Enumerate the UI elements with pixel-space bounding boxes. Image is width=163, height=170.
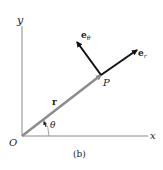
position-vector-label: r <box>52 97 57 107</box>
e-r-subscript: r <box>144 52 148 59</box>
angle-label: θ <box>50 120 56 130</box>
figure-caption: (b) <box>73 149 86 159</box>
e-theta-label: eθ <box>81 30 91 41</box>
y-axis-label: y <box>16 14 24 27</box>
unit-vector-e-theta <box>77 42 101 75</box>
unit-vector-e-r <box>101 50 137 75</box>
theta-arc <box>44 120 49 136</box>
position-vector-r <box>22 75 101 136</box>
e-theta-subscript: θ <box>87 34 91 41</box>
polar-coordinates-diagram: y x O P r θ er eθ (b) <box>0 0 163 170</box>
point-label: P <box>102 77 110 88</box>
e-r-label: er <box>138 48 148 59</box>
origin-label: O <box>9 137 17 148</box>
x-axis-label: x <box>150 130 156 141</box>
